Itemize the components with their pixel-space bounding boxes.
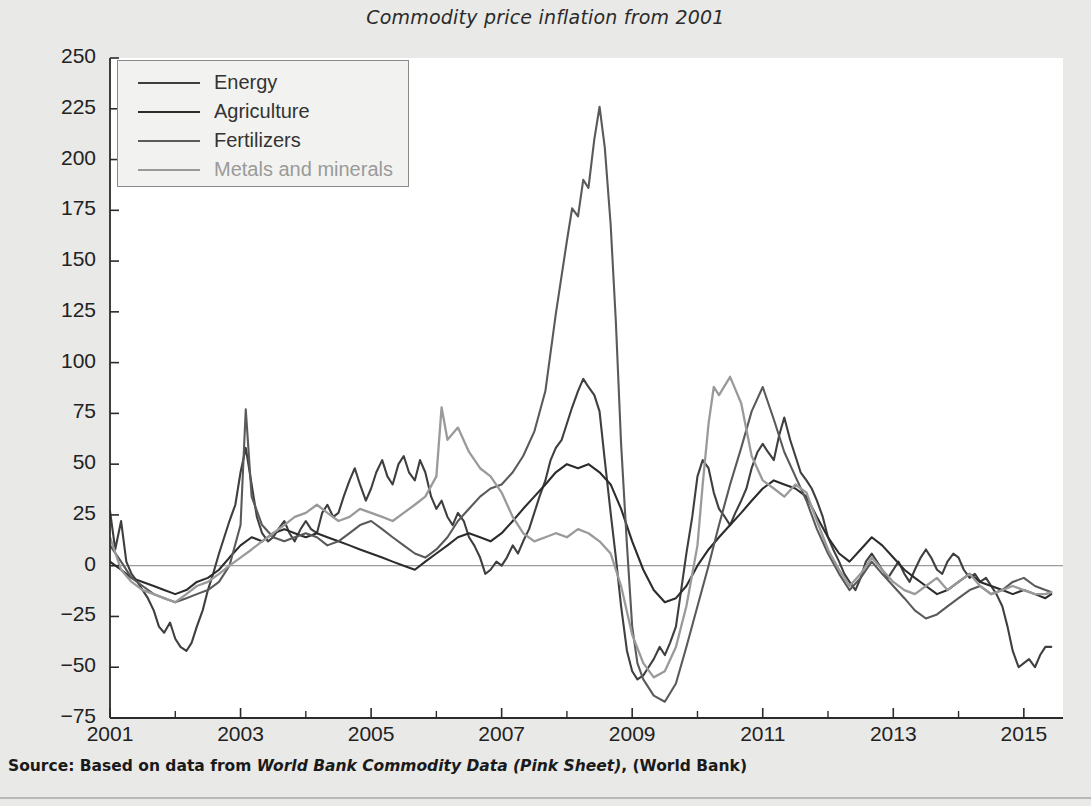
source-italic: World Bank Commodity Data (Pink Sheet) [257,757,621,775]
legend-line-swatch-icon [138,82,200,84]
source-note: Source: Based on data from World Bank Co… [8,757,747,775]
legend-item-energy[interactable]: Energy [118,68,408,97]
source-prefix: Source: Based on data from [8,757,257,775]
bottom-rule [0,797,1091,799]
legend-item-fertilizers[interactable]: Fertilizers [118,126,408,155]
legend-label: Fertilizers [214,129,301,152]
legend-item-metals-and-minerals[interactable]: Metals and minerals [118,155,408,184]
legend-label: Agriculture [214,100,310,123]
legend-item-agriculture[interactable]: Agriculture [118,97,408,126]
legend-line-swatch-icon [138,169,200,171]
legend-box: EnergyAgricultureFertilizersMetals and m… [117,60,409,187]
legend-label: Energy [214,71,277,94]
legend-label: Metals and minerals [214,158,393,181]
legend-line-swatch-icon [138,111,200,113]
source-suffix: , (World Bank) [621,757,747,775]
figure-root: Commodity price inflation from 2001 Annu… [0,0,1091,806]
legend-line-swatch-icon [138,140,200,142]
